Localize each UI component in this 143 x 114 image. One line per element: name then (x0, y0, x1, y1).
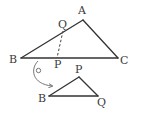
cut-side-bp (49, 77, 79, 96)
label-a: A (77, 4, 87, 17)
rotation-arrow-icon (34, 61, 52, 86)
label-c: C (120, 54, 128, 67)
side-ca (83, 20, 118, 58)
label-cut-b: B (38, 92, 46, 105)
geometry-diagram: A B C Q P P B Q (0, 0, 143, 114)
side-ab (21, 20, 83, 58)
label-cut-p: P (75, 63, 83, 76)
label-b: B (9, 53, 17, 66)
pivot-circle-icon (36, 68, 40, 72)
label-p: P (54, 58, 62, 71)
cut-side-pq (79, 77, 98, 96)
label-cut-q: Q (97, 96, 106, 109)
label-q: Q (58, 18, 67, 31)
diagram-canvas: A B C Q P P B Q (0, 0, 143, 114)
